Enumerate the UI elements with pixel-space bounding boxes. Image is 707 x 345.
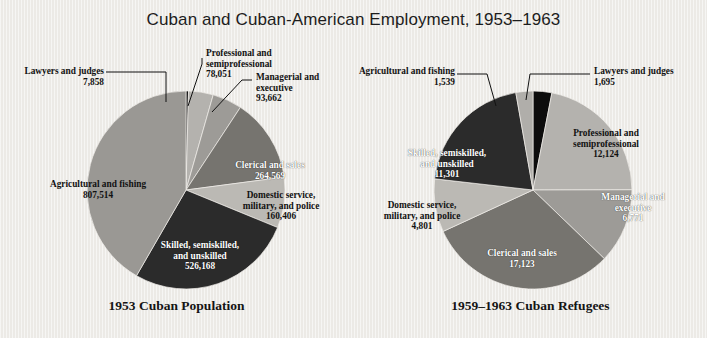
label-skilled-value-1963: 11,301 (372, 169, 522, 180)
label-managerial-line2-1963: executive (570, 203, 696, 214)
label-lawyers-and-judges-1953: Lawyers and judges 7,858 (6, 66, 104, 87)
figure-canvas: Cuban and Cuban-American Employment, 195… (0, 0, 707, 338)
label-skilled-line2-1953: and unskilled (128, 251, 272, 262)
label-skilled-1953: Skilled, semiskilled, and unskilled 526,… (128, 240, 272, 272)
caption-1953: 1953 Cuban Population (0, 298, 353, 314)
label-skilled-line2-1963: and unskilled (372, 159, 522, 170)
label-managerial-line1-1953: Managerial and (256, 72, 319, 82)
label-clerical-value-1953: 264,569 (204, 171, 336, 182)
label-professional-1963: Professional and semiprofessional 12,124 (540, 128, 672, 160)
label-domestic-line2-1963: military, and police (360, 211, 484, 222)
label-lawyers-1963: Lawyers and judges 1,695 (594, 66, 674, 87)
label-professional-value-1963: 12,124 (540, 149, 672, 160)
label-lawyers-value-1953: 7,858 (6, 77, 104, 88)
label-managerial-1963: Managerial and executive 6,771 (570, 192, 696, 224)
label-domestic-line1-1953: Domestic service, (247, 190, 316, 200)
label-lawyers-text-1953: Lawyers and judges (24, 66, 104, 76)
caption-1959-1963: 1959–1963 Cuban Refugees (354, 298, 707, 314)
label-lawyers-value-1963: 1,695 (594, 77, 674, 88)
label-clerical-value-1963: 17,123 (442, 259, 602, 270)
label-skilled-value-1953: 526,168 (128, 261, 272, 272)
label-domestic-value-1963: 4,801 (360, 221, 484, 232)
label-clerical-1963: Clerical and sales 17,123 (442, 248, 602, 269)
label-agricultural-text-1953: Agricultural and fishing (50, 179, 146, 189)
label-clerical-1953: Clerical and sales 264,569 (204, 160, 336, 181)
label-domestic-line2-1953: military, and police (212, 201, 350, 212)
label-domestic-1953: Domestic service, military, and police 1… (212, 190, 350, 222)
label-skilled-line1-1963: Skilled, semiskilled, (408, 148, 486, 158)
label-skilled-line1-1953: Skilled, semiskilled, (161, 240, 239, 250)
label-agricultural-value-1953: 807,514 (22, 190, 174, 201)
pie-panel-1959-1963: Agricultural and fishing 1,539 Lawyers a… (354, 0, 707, 338)
label-professional-line2-1963: semiprofessional (540, 139, 672, 150)
label-managerial-line2-1953: executive (256, 83, 319, 94)
label-managerial-line1-1963: Managerial and (601, 192, 664, 202)
label-skilled-1963: Skilled, semiskilled, and unskilled 11,3… (372, 148, 522, 180)
label-domestic-line1-1963: Domestic service, (388, 200, 457, 210)
label-clerical-text-1963: Clerical and sales (487, 248, 557, 258)
label-lawyers-text-1963: Lawyers and judges (594, 66, 674, 76)
label-clerical-text-1953: Clerical and sales (235, 160, 305, 170)
label-managerial-value-1953: 93,662 (256, 93, 319, 104)
label-professional-line2-1953: semiprofessional (206, 59, 272, 70)
label-professional-line1-1953: Professional and (206, 48, 272, 58)
label-agricultural-1953: Agricultural and fishing 807,514 (22, 179, 174, 200)
label-managerial-1953: Managerial and executive 93,662 (256, 72, 319, 104)
label-domestic-value-1953: 160,406 (212, 211, 350, 222)
label-professional-line1-1963: Professional and (573, 128, 639, 138)
label-agricultural-value-1963: 1,539 (356, 77, 455, 88)
label-domestic-1963: Domestic service, military, and police 4… (360, 200, 484, 232)
label-managerial-value-1963: 6,771 (570, 213, 696, 224)
label-agricultural-text-1963: Agricultural and fishing (359, 66, 455, 76)
pie-panel-1953: Lawyers and judges 7,858 Professional an… (0, 0, 353, 338)
label-agricultural-1963: Agricultural and fishing 1,539 (356, 66, 455, 87)
